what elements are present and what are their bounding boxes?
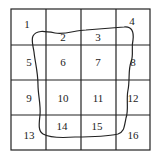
- cell-label: 15: [92, 120, 104, 132]
- closed-curve: [32, 27, 133, 138]
- cell-label: 13: [24, 129, 36, 141]
- cell-label: 2: [60, 31, 66, 43]
- cell-label: 4: [129, 15, 135, 27]
- grid-diagram: 1 2 3 4 5 6 7 8 9 10 11 12 13 14 15 16: [0, 0, 160, 165]
- cell-label: 9: [26, 92, 32, 104]
- cell-label: 11: [93, 92, 104, 104]
- cell-label: 16: [128, 129, 140, 141]
- cell-label: 10: [58, 92, 70, 104]
- cell-label: 1: [24, 18, 30, 30]
- cell-label: 3: [95, 31, 101, 43]
- cell-label: 5: [26, 56, 32, 68]
- cell-label: 12: [128, 92, 139, 104]
- cell-label: 14: [57, 120, 69, 132]
- cell-label: 6: [60, 56, 66, 68]
- cell-label: 7: [95, 56, 101, 68]
- cell-label: 8: [130, 56, 136, 68]
